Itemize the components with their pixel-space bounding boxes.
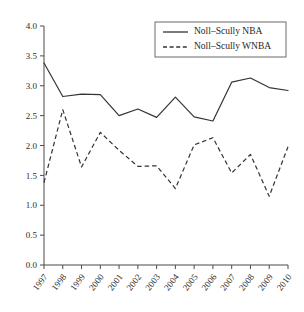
x-tick-label: 1997	[31, 272, 50, 293]
y-tick-label: 2.0	[26, 141, 38, 151]
x-tick-label: 2008	[237, 272, 256, 293]
x-tick-label: 2001	[106, 272, 125, 292]
chart-container: 0.00.51.01.52.02.53.03.54.0 199719981999…	[0, 0, 304, 312]
y-tick-label: 2.5	[26, 111, 38, 121]
y-tick-label: 3.5	[26, 51, 38, 61]
y-tick-label: 1.0	[26, 200, 38, 210]
x-tick-label: 1998	[49, 272, 68, 293]
chart-legend: Noll–Scully NBANoll–Scully WNBA	[155, 22, 286, 57]
x-axis: 1997199819992000200120022003200420052006…	[31, 265, 294, 292]
x-tick-label: 2009	[256, 272, 275, 293]
x-tick-label: 1999	[68, 272, 87, 293]
y-tick-label: 1.5	[26, 171, 38, 181]
legend-label: Noll–Scully WNBA	[194, 41, 271, 51]
y-tick-label: 4.0	[26, 21, 38, 31]
x-tick-label: 2002	[124, 272, 143, 292]
y-tick-label: 3.0	[26, 81, 38, 91]
x-tick-label: 2003	[143, 272, 162, 293]
y-axis: 0.00.51.01.52.02.53.03.54.0	[26, 21, 44, 270]
x-tick-label: 2000	[87, 272, 106, 293]
data-series-group	[44, 63, 288, 196]
y-tick-label: 0.0	[26, 260, 38, 270]
line-chart: 0.00.51.01.52.02.53.03.54.0 199719981999…	[0, 0, 304, 312]
x-tick-label: 2006	[200, 272, 219, 293]
series-line-wnba	[44, 110, 288, 197]
x-tick-label: 2004	[162, 272, 181, 293]
y-tick-label: 0.5	[26, 230, 38, 240]
x-tick-label: 2005	[181, 272, 200, 293]
series-line-nba	[44, 63, 288, 121]
x-tick-label: 2007	[218, 272, 237, 293]
legend-label: Noll–Scully NBA	[194, 26, 262, 36]
x-tick-label: 2010	[275, 272, 294, 293]
